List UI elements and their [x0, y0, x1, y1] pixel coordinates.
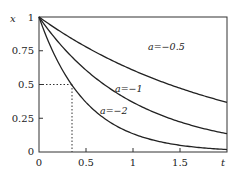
label-a-2: a=−2 — [100, 105, 128, 116]
half-life-guide — [39, 85, 72, 153]
decay-chart: x 1 0.75 0.5 0.25 0 0 0.5 1 1.5 t a=−0.5… — [0, 0, 242, 177]
x-ticks — [86, 148, 180, 152]
y-tick-0: 0 — [28, 146, 34, 157]
label-a-05: a=−0.5 — [148, 41, 185, 52]
x-axis-label: t — [221, 157, 226, 168]
x-tick-1: 1 — [130, 157, 136, 168]
y-tick-05: 0.5 — [18, 79, 34, 90]
y-tick-075: 0.75 — [12, 45, 34, 56]
y-tick-025: 0.25 — [12, 113, 34, 124]
x-tick-05: 0.5 — [78, 157, 94, 168]
curve--1 — [39, 17, 227, 134]
x-tick-0: 0 — [36, 157, 42, 168]
y-tick-1: 1 — [28, 12, 34, 23]
label-a-1: a=−1 — [115, 83, 143, 94]
y-axis-label: x — [10, 13, 16, 24]
x-tick-15: 1.5 — [172, 157, 188, 168]
